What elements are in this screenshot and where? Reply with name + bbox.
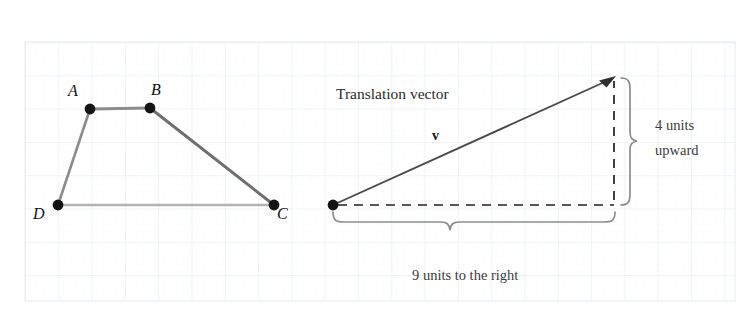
vertex-label-A: A [68, 83, 78, 100]
vertical-annotation-line-1: 4 units [655, 118, 694, 133]
vector-origin-point [328, 200, 339, 211]
vertex-point-D [53, 200, 64, 211]
figure-graphics [0, 0, 752, 323]
vector-label-v: v [432, 129, 439, 144]
horizontal-brace [333, 212, 615, 230]
vertex-point-B [145, 103, 156, 114]
vertex-point-A [85, 104, 96, 115]
vertex-label-B: B [151, 82, 161, 99]
vertical-annotation-line-2: upward [655, 143, 699, 158]
horizontal-annotation-label: 9 units to the right [412, 268, 518, 283]
segment-DA [58, 109, 90, 205]
vertex-label-C: C [277, 206, 288, 223]
segment-BC [150, 108, 274, 205]
vertical-brace [621, 78, 637, 205]
segment-AB [90, 108, 150, 109]
vertex-label-D: D [33, 206, 45, 223]
translation-vector-title: Translation vector [336, 86, 449, 102]
translation-vector-figure: A B C D Translation vector v 4 units upw… [0, 0, 752, 323]
quadrilateral-ABCD [53, 103, 280, 211]
